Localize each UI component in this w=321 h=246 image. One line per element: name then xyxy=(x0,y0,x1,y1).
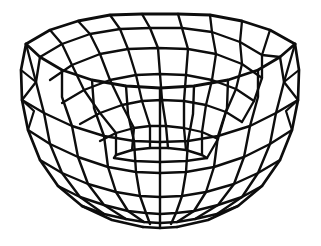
bowl-wireframe-drawing xyxy=(0,0,321,246)
figure-canvas xyxy=(0,0,321,246)
